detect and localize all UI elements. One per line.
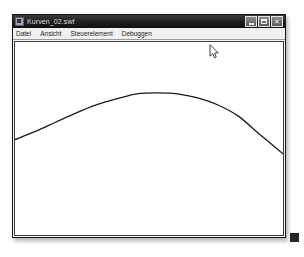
- flash-player-window: Kurven_02.swf ✕ Datei Ansicht Steuerelem…: [12, 14, 286, 238]
- title-bar[interactable]: Kurven_02.swf ✕: [13, 15, 285, 28]
- flash-stage[interactable]: [14, 41, 284, 236]
- maximize-icon: [261, 19, 267, 24]
- flash-player-icon: [15, 17, 24, 26]
- menu-item-debuggen[interactable]: Debuggen: [122, 30, 157, 38]
- window-buttons: ✕: [245, 16, 284, 27]
- minimize-button[interactable]: [245, 16, 257, 27]
- window-title: Kurven_02.swf: [27, 17, 245, 26]
- close-button[interactable]: ✕: [271, 16, 283, 27]
- curve-line: [15, 93, 283, 154]
- menu-item-ansicht[interactable]: Ansicht: [40, 30, 66, 38]
- corner-marker: [290, 233, 299, 242]
- curve-plot: [15, 42, 283, 235]
- menu-bar: Datei Ansicht Steuerelement Debuggen: [13, 28, 285, 40]
- menu-item-datei[interactable]: Datei: [16, 30, 36, 38]
- menu-item-steuerelement[interactable]: Steuerelement: [71, 30, 118, 38]
- minimize-icon: [249, 23, 254, 25]
- close-icon: ✕: [274, 18, 280, 25]
- stage-container: [13, 40, 285, 237]
- maximize-button[interactable]: [258, 16, 270, 27]
